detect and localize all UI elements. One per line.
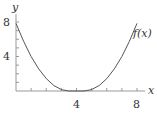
function-curve <box>16 23 137 91</box>
x-axis-label: x <box>148 84 155 97</box>
axes <box>16 14 145 91</box>
y-tick-label-8: 8 <box>3 16 10 29</box>
y-tick-label-4: 4 <box>3 50 10 63</box>
function-plot: y x 8 4 4 8 f(x) <box>0 0 157 116</box>
curve-label: f(x) <box>132 27 152 40</box>
x-tick-label-4: 4 <box>73 98 80 111</box>
ticks <box>16 22 137 91</box>
y-axis-label: y <box>11 1 19 14</box>
x-tick-label-8: 8 <box>133 98 140 111</box>
